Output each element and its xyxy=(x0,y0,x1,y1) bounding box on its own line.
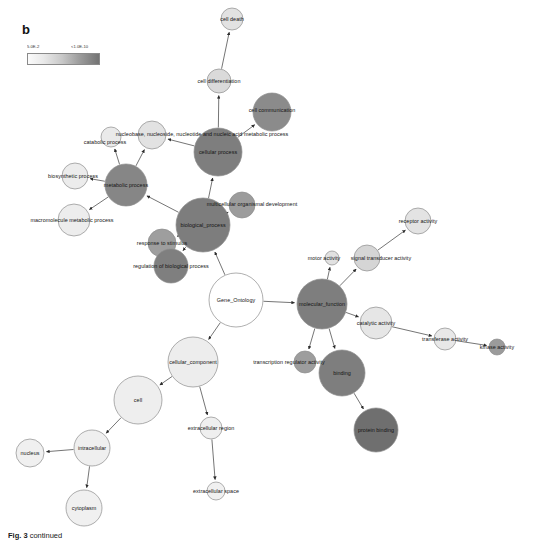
node-label-motor_activity: motor activity xyxy=(308,255,340,262)
node-label-response_to_stimulus: response to stimulus xyxy=(137,240,187,247)
graph-edge xyxy=(136,150,144,166)
node-label-cell_communication: cell communication xyxy=(249,107,296,114)
node-label-nucleobase_etc: nucleobase, nucleoside, nucleotide and n… xyxy=(116,131,288,138)
node-label-biosynthetic_process: biosynthetic process xyxy=(48,173,98,180)
figure-caption: Fig. 3 continued xyxy=(8,531,528,543)
node-label-transcription_regulator_activity: transcription regulator activity xyxy=(253,359,325,366)
node-label-gene_ontology: Gene_Ontology xyxy=(217,297,255,304)
graph-edge xyxy=(215,252,225,275)
node-label-signal_transducer_activity: signal transducer activity xyxy=(351,255,411,262)
graph-edge xyxy=(209,178,213,198)
node-label-cell_differentiation: cell differentiation xyxy=(198,78,241,85)
graph-edge xyxy=(160,376,172,384)
graph-edge xyxy=(200,387,208,415)
node-label-kinase_activity: kinase activity xyxy=(480,344,514,351)
node-label-binding: binding xyxy=(333,370,351,377)
node-label-molecular_function: molecular_function xyxy=(299,301,345,308)
graph-edge xyxy=(106,418,121,434)
node-label-multicellular_organismal_development: multicellular organismal development xyxy=(207,201,298,208)
graph-edge xyxy=(346,312,358,316)
node-label-cellular_process: cellular process xyxy=(199,149,237,156)
graph-edge xyxy=(329,328,335,348)
graph-edge xyxy=(340,269,356,286)
graph-edge xyxy=(354,393,363,409)
node-label-intracellular: intracellular xyxy=(78,445,106,452)
node-label-transferase_activity: transferase activity xyxy=(422,336,468,343)
graph-edge xyxy=(183,247,186,251)
graph-edge xyxy=(89,197,108,210)
graph-edge xyxy=(378,230,406,250)
graph-edge xyxy=(263,301,294,302)
node-label-protein_binding: protein binding xyxy=(358,427,394,434)
node-label-biological_process: biological_process xyxy=(180,222,225,229)
node-label-catalytic_activity: catalytic activity xyxy=(357,320,395,327)
node-label-receptor_activity: receptor activity xyxy=(399,218,438,225)
node-label-cellular_component: cellular_component xyxy=(169,359,217,366)
node-label-cell: cell xyxy=(134,397,142,404)
graph-edge xyxy=(168,139,194,146)
node-label-cytoplasm: cytoplasm xyxy=(72,505,97,512)
graph-edge xyxy=(115,149,120,165)
caption-prefix: Fig. 3 xyxy=(8,531,28,540)
node-label-regulation_of_biological_process: regulation of biological process xyxy=(133,263,209,270)
graph-edge xyxy=(209,323,221,340)
node-label-macromolecule_metabolic_process: macromolecule metabolic process xyxy=(30,217,113,224)
graph-edge xyxy=(222,32,230,69)
node-label-metabolic_process: metabolic process xyxy=(104,182,148,189)
node-label-cell_death: cell death xyxy=(220,16,244,23)
graph-edge xyxy=(212,439,215,479)
node-label-extracellular_region: extracellular region xyxy=(188,425,235,432)
figure-panel: b 5.0E-2 <1.0E-10 cell deathcell differe… xyxy=(0,0,537,543)
graph-edge xyxy=(87,466,90,487)
node-label-nucleus: nucleus xyxy=(21,450,40,457)
graph-edge xyxy=(309,328,315,349)
go-network-graph xyxy=(0,0,537,543)
graph-edge xyxy=(147,196,179,212)
graph-edge xyxy=(392,327,432,336)
node-label-catabolic_process: catabolic process xyxy=(84,139,127,146)
graph-edge xyxy=(327,267,330,279)
graph-edge xyxy=(46,449,73,451)
caption-text: continued xyxy=(30,531,63,540)
node-label-extracellular_space: extracellular space xyxy=(193,488,239,495)
